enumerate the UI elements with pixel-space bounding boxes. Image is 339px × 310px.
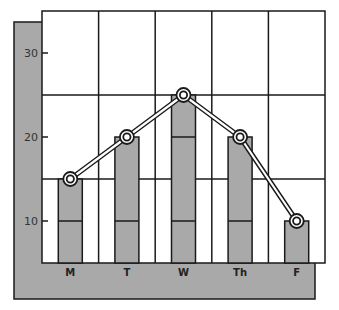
- bar-Th: [228, 137, 252, 263]
- x-tick-label: M: [65, 267, 75, 278]
- bar-line-chart: 102030 MTWThF: [0, 0, 339, 310]
- y-tick-label: 10: [24, 215, 38, 228]
- x-tick-label: Th: [233, 267, 247, 278]
- bar-W: [172, 95, 196, 263]
- marker-inner-ring-icon: [180, 91, 187, 98]
- x-tick-label: F: [293, 267, 300, 278]
- x-tick-label: W: [178, 267, 189, 278]
- marker-inner-ring-icon: [237, 133, 244, 140]
- marker-inner-ring-icon: [123, 133, 130, 140]
- y-tick-label: 30: [24, 47, 38, 60]
- marker-inner-ring-icon: [67, 175, 74, 182]
- x-tick-label: T: [123, 267, 130, 278]
- y-tick-label: 20: [24, 131, 38, 144]
- marker-inner-ring-icon: [293, 217, 300, 224]
- bar-T: [115, 137, 139, 263]
